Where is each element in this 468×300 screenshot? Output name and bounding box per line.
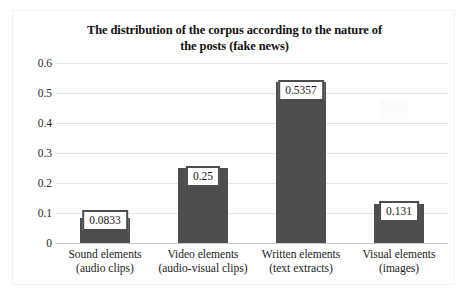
y-tick-label-0.6: 0.6 bbox=[18, 58, 52, 69]
x-tick-label-video-elements-line-2: (audio-visual clips) bbox=[154, 261, 252, 275]
bar-group-visual-elements[interactable]: 0.131 bbox=[350, 63, 448, 243]
plot-area: 0.0833 0.25 0.5357 0.131 bbox=[56, 63, 448, 243]
x-tick-label-visual-elements-line-1: Visual elements bbox=[350, 247, 448, 261]
bar-value-label-visual-elements: 0.131 bbox=[379, 201, 419, 222]
chart-title: The distribution of the corpus according… bbox=[13, 22, 456, 54]
bar-value-label-video-elements: 0.25 bbox=[186, 166, 220, 187]
x-tick-label-sound-elements-line-2: (audio clips) bbox=[56, 261, 154, 275]
y-tick-label-0.5: 0.5 bbox=[18, 88, 52, 99]
bar-group-sound-elements[interactable]: 0.0833 bbox=[56, 63, 154, 243]
x-axis: Sound elements (audio clips) Video eleme… bbox=[56, 247, 448, 283]
x-tick-label-written-elements-line-2: (text extracts) bbox=[252, 261, 350, 275]
y-tick-label-0: 0 bbox=[18, 238, 52, 249]
x-tick-label-video-elements-line-1: Video elements bbox=[154, 247, 252, 261]
y-tick-label-0.4: 0.4 bbox=[18, 118, 52, 129]
bar-value-label-written-elements: 0.5357 bbox=[278, 80, 324, 101]
x-tick-label-sound-elements-line-1: Sound elements bbox=[56, 247, 154, 261]
x-tick-label-written-elements-line-1: Written elements bbox=[252, 247, 350, 261]
bar-group-video-elements[interactable]: 0.25 bbox=[154, 63, 252, 243]
x-tick-label-video-elements: Video elements (audio-visual clips) bbox=[154, 247, 252, 275]
y-tick-label-0.3: 0.3 bbox=[18, 148, 52, 159]
bar-group-written-elements[interactable]: 0.5357 bbox=[252, 63, 350, 243]
x-tick-label-visual-elements: Visual elements (images) bbox=[350, 247, 448, 275]
bar-value-label-sound-elements: 0.0833 bbox=[82, 210, 128, 231]
x-tick-label-visual-elements-line-2: (images) bbox=[350, 261, 448, 275]
bar-written-elements[interactable] bbox=[276, 82, 326, 243]
x-tick-label-sound-elements: Sound elements (audio clips) bbox=[56, 247, 154, 275]
axis-baseline bbox=[56, 243, 448, 244]
chart-container: The distribution of the corpus according… bbox=[12, 10, 455, 285]
x-tick-label-written-elements: Written elements (text extracts) bbox=[252, 247, 350, 275]
y-tick-label-0.1: 0.1 bbox=[18, 208, 52, 219]
chart-title-line-1: The distribution of the corpus according… bbox=[13, 22, 456, 38]
chart-title-line-2: the posts (fake news) bbox=[13, 38, 456, 54]
y-axis: 0.6 0.5 0.4 0.3 0.2 0.1 0 bbox=[13, 63, 52, 243]
y-tick-label-0.2: 0.2 bbox=[18, 178, 52, 189]
